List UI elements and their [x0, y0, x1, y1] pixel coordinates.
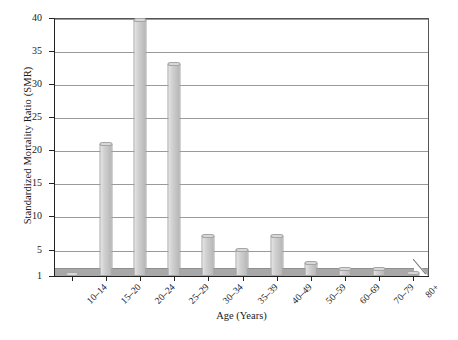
- bar: [304, 263, 317, 276]
- bar-cap: [304, 261, 317, 265]
- x-tick-label: 20–24: [153, 282, 177, 306]
- bar-slot: [89, 19, 123, 276]
- bar-cap: [406, 271, 419, 275]
- bar-slot: [362, 19, 396, 276]
- bar-slot: [294, 19, 328, 276]
- bar: [168, 64, 181, 276]
- bar: [100, 144, 113, 276]
- y-tick-mark: [49, 117, 54, 118]
- y-tick-label: 25: [8, 111, 42, 123]
- bar-cap: [270, 234, 283, 238]
- y-tick-mark: [49, 183, 54, 184]
- bar-slot: [157, 19, 191, 276]
- y-tick-mark: [49, 216, 54, 217]
- y-tick-label: 30: [8, 78, 42, 90]
- x-axis-title: Age (Years): [54, 310, 429, 321]
- x-tick-label: 70–79: [392, 282, 416, 306]
- x-tick-label: 50–59: [324, 282, 348, 306]
- bar-slot: [328, 19, 362, 276]
- bar-cap: [372, 267, 385, 271]
- y-tick-label: 10: [8, 210, 42, 222]
- plot-area: [54, 18, 429, 276]
- x-tick-label: 40–49: [290, 282, 314, 306]
- bar-chart: Standardized Mortality Ratio (SMR) 15101…: [0, 0, 458, 340]
- bar-cap: [134, 18, 147, 22]
- y-tick-label: 5: [8, 244, 42, 256]
- bar-cap: [202, 234, 215, 238]
- bar-cap: [100, 142, 113, 146]
- bar-series: [55, 19, 428, 276]
- bar-slot: [55, 19, 89, 276]
- x-tick-label: 80+: [423, 282, 441, 300]
- bar: [236, 250, 249, 276]
- y-tick-label: 40: [8, 12, 42, 24]
- x-tick-label: 25–29: [187, 282, 211, 306]
- y-tick-mark: [49, 150, 54, 151]
- bar: [270, 236, 283, 276]
- bar-slot: [123, 19, 157, 276]
- x-tick-label: 30–34: [221, 282, 245, 306]
- x-tick-label: 60–69: [358, 282, 382, 306]
- bar: [134, 20, 147, 276]
- y-tick-label: 15: [8, 177, 42, 189]
- bar-slot: [191, 19, 225, 276]
- y-tick-mark: [49, 51, 54, 52]
- y-tick-label: 1: [8, 270, 42, 282]
- bar-slot: [260, 19, 294, 276]
- x-tick-label: 10–14: [85, 282, 109, 306]
- y-tick-label: 20: [8, 144, 42, 156]
- bar-cap: [236, 248, 249, 252]
- bar-slot: [396, 19, 430, 276]
- x-tick-label: 35–39: [255, 282, 279, 306]
- y-tick-mark: [49, 250, 54, 251]
- bar: [202, 236, 215, 276]
- y-tick-label: 35: [8, 45, 42, 57]
- bar-slot: [225, 19, 259, 276]
- bar: [338, 269, 351, 276]
- y-tick-mark: [49, 84, 54, 85]
- bar-cap: [338, 267, 351, 271]
- bar-cap: [168, 62, 181, 66]
- bar: [372, 269, 385, 276]
- y-tick-mark: [49, 18, 54, 19]
- x-tick-label: 15–20: [119, 282, 143, 306]
